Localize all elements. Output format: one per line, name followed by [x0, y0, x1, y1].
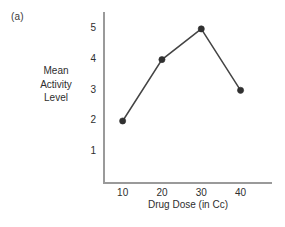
x-tick-label: 10 [112, 187, 134, 198]
y-axis-title-line-1: Mean [30, 64, 82, 78]
panel-label: (a) [11, 11, 24, 22]
y-tick-label: 2 [80, 114, 96, 125]
x-tick-label: 20 [151, 187, 173, 198]
x-axis-title: Drug Dose (in Cc) [103, 199, 273, 210]
y-tick-label: 3 [80, 84, 96, 95]
y-axis-title-line-3: Level [30, 91, 82, 105]
y-axis-title-line-2: Activity [30, 78, 82, 92]
series-line [123, 29, 241, 121]
y-tick-label: 4 [80, 53, 96, 64]
x-axis-line [103, 182, 272, 184]
data-point-marker [159, 56, 165, 62]
y-axis-title: Mean Activity Level [30, 64, 82, 105]
x-axis-title-text: Drug Dose (in Cc) [148, 199, 228, 210]
y-tick-label: 1 [80, 145, 96, 156]
chart-figure: (a) Mean Activity Level 12345 10203040 D… [0, 0, 285, 227]
data-point-marker [237, 87, 243, 93]
x-tick-label: 30 [190, 187, 212, 198]
series-markers [120, 26, 244, 124]
y-tick-label: 5 [80, 22, 96, 33]
data-point-marker [198, 26, 204, 32]
data-point-marker [120, 118, 126, 124]
x-tick-label: 40 [230, 187, 252, 198]
y-axis-line [103, 12, 105, 184]
